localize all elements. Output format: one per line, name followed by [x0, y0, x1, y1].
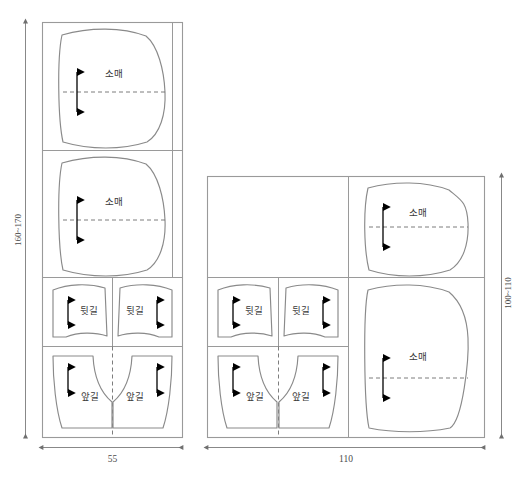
sleeve-outline: [365, 183, 468, 276]
narrow-height-dimension: 160~170: [13, 23, 25, 438]
back-label: 뒷길: [126, 305, 144, 316]
back-label: 뒷길: [245, 305, 263, 316]
narrow-fabric-layout: 소매 소매 뒷길 뒷길 앞길: [13, 23, 182, 465]
sleeve-outline: [59, 29, 165, 148]
sleeve-label: 소매: [409, 207, 427, 218]
back-label: 뒷길: [292, 305, 310, 316]
sleeve-outline: [59, 157, 165, 276]
sleeve-label: 소매: [105, 68, 123, 79]
piece-sleeve-second: 소매: [59, 157, 165, 276]
front-label: 앞길: [126, 391, 144, 402]
narrow-height-label: 160~170: [13, 214, 23, 246]
wide-height-label: 100~110: [503, 277, 513, 309]
sleeve-label: 소매: [409, 351, 427, 362]
piece-back-right: 뒷길: [284, 285, 338, 337]
wide-width-label: 110: [339, 454, 353, 464]
wide-fabric-layout: 소매 소매 뒷길 뒷길 앞길: [208, 177, 514, 465]
back-label: 뒷길: [80, 305, 98, 316]
piece-back-left: 뒷길: [53, 285, 107, 337]
piece-back-left: 뒷길: [218, 285, 272, 337]
wide-height-dimension: 100~110: [502, 177, 514, 438]
piece-sleeve-upper-right: 소매: [365, 183, 468, 276]
front-label: 앞길: [292, 391, 310, 402]
piece-sleeve-top: 소매: [59, 29, 165, 148]
fabric-layout-diagram: 소매 소매 뒷길 뒷길 앞길: [0, 0, 531, 480]
piece-sleeve-lower-right: 소매: [365, 285, 468, 432]
front-label: 앞길: [246, 391, 264, 402]
piece-back-right: 뒷길: [118, 285, 172, 337]
sleeve-label: 소매: [105, 196, 123, 207]
narrow-width-dimension: 55: [43, 448, 183, 465]
wide-width-dimension: 110: [208, 448, 485, 465]
front-label: 앞길: [81, 391, 99, 402]
narrow-width-label: 55: [108, 454, 118, 464]
